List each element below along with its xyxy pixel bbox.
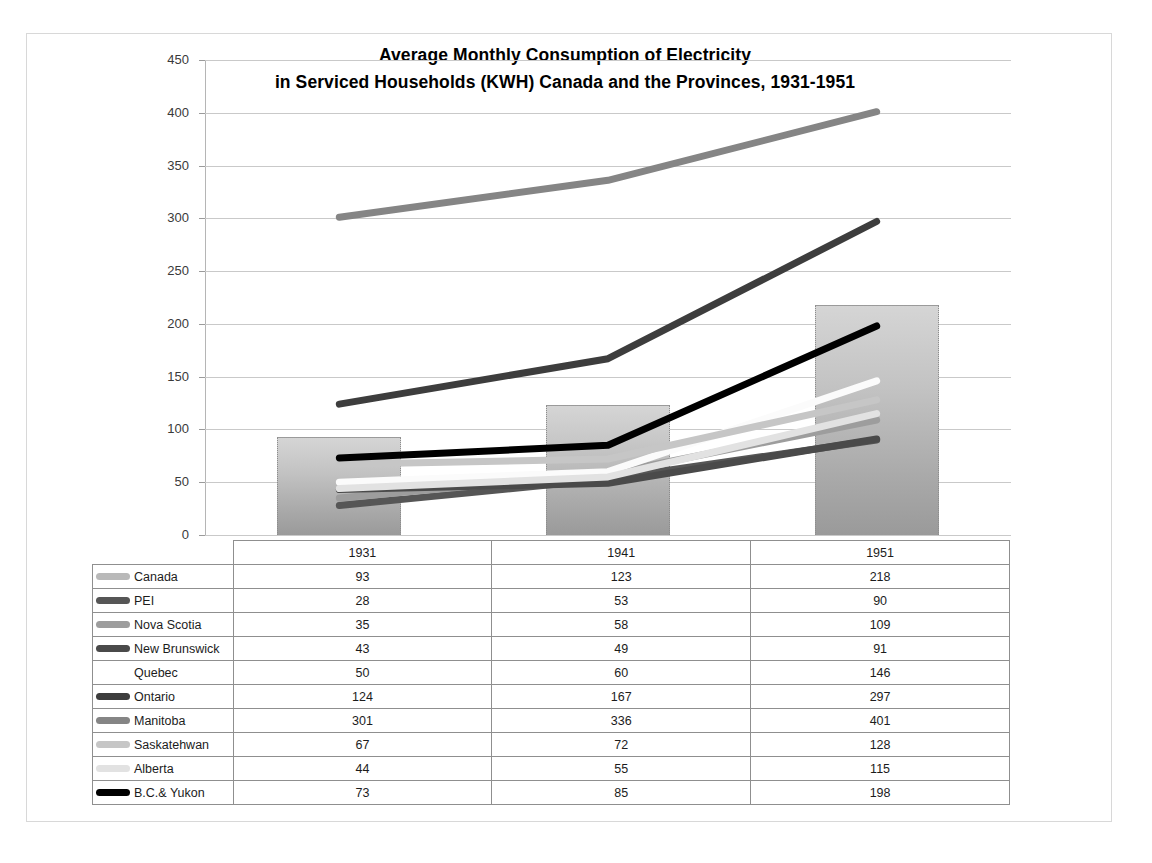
legend-swatch-icon: [96, 645, 130, 652]
legend-swatch-icon: [96, 741, 130, 748]
series-lines: [205, 60, 1011, 535]
table-cell-1931: 28: [233, 589, 492, 613]
y-axis-tick-label: 350: [149, 159, 189, 172]
table-cell-1931: 44: [233, 757, 492, 781]
table-row: New Brunswick434991: [93, 637, 1010, 661]
legend-label: Nova Scotia: [134, 618, 201, 632]
data-table: 193119411951Canada93123218PEI285390Nova …: [92, 540, 1010, 805]
table-row: Canada93123218: [93, 565, 1010, 589]
legend-swatch-icon: [96, 717, 130, 724]
table-cell-1951: 146: [751, 661, 1010, 685]
table-cell-1951: 109: [751, 613, 1010, 637]
y-axis-tick-label: 150: [149, 370, 189, 383]
table-cell-1951: 198: [751, 781, 1010, 805]
table-row: Saskatehwan6772128: [93, 733, 1010, 757]
table-row: Alberta4455115: [93, 757, 1010, 781]
y-axis-tick-label: 400: [149, 106, 189, 119]
legend-swatch-icon: [96, 597, 130, 604]
table-cell-1951: 91: [751, 637, 1010, 661]
table-corner-cell: [93, 541, 234, 565]
table-cell-1951: 90: [751, 589, 1010, 613]
table-cell-1931: 67: [233, 733, 492, 757]
table-row: Manitoba301336401: [93, 709, 1010, 733]
table-cell-1931: 50: [233, 661, 492, 685]
y-axis-tick-label: 50: [149, 475, 189, 488]
legend-label: Alberta: [134, 762, 174, 776]
legend-label: Manitoba: [134, 714, 185, 728]
legend-swatch-icon: [96, 573, 130, 580]
table-row: PEI285390: [93, 589, 1010, 613]
legend-label: New Brunswick: [134, 642, 219, 656]
table-cell-1941: 53: [492, 589, 751, 613]
legend-cell-saskatehwan: Saskatehwan: [93, 733, 234, 757]
table-cell-1941: 123: [492, 565, 751, 589]
legend-swatch-icon: [96, 669, 130, 676]
legend-cell-alberta: Alberta: [93, 757, 234, 781]
table-cell-1951: 128: [751, 733, 1010, 757]
table-row: Ontario124167297: [93, 685, 1010, 709]
legend-cell-b-c-yukon: B.C.& Yukon: [93, 781, 234, 805]
table-cell-1931: 93: [233, 565, 492, 589]
table-row: Quebec5060146: [93, 661, 1010, 685]
legend-cell-quebec: Quebec: [93, 661, 234, 685]
table-header-1951: 1951: [751, 541, 1010, 565]
legend-label: Quebec: [134, 666, 178, 680]
legend-cell-pei: PEI: [93, 589, 234, 613]
legend-swatch-icon: [96, 621, 130, 628]
legend-cell-nova-scotia: Nova Scotia: [93, 613, 234, 637]
legend-cell-new-brunswick: New Brunswick: [93, 637, 234, 661]
table-header-1931: 1931: [233, 541, 492, 565]
legend-label: Ontario: [134, 690, 175, 704]
gridline: [205, 535, 1011, 536]
y-axis-tick-label: 300: [149, 211, 189, 224]
table-cell-1941: 167: [492, 685, 751, 709]
plot-canvas: 050100150200250300350400450: [205, 60, 1011, 535]
table-header-row: 193119411951: [93, 541, 1010, 565]
y-tick-mark: [199, 535, 205, 536]
table-cell-1941: 55: [492, 757, 751, 781]
y-axis-tick-label: 250: [149, 264, 189, 277]
legend-label: Canada: [134, 570, 178, 584]
legend-cell-manitoba: Manitoba: [93, 709, 234, 733]
table-cell-1951: 401: [751, 709, 1010, 733]
legend-label: PEI: [134, 594, 154, 608]
legend-cell-ontario: Ontario: [93, 685, 234, 709]
legend-swatch-icon: [96, 693, 130, 700]
table-cell-1931: 73: [233, 781, 492, 805]
chart-plot-area: 050100150200250300350400450: [205, 60, 1011, 535]
table-cell-1941: 85: [492, 781, 751, 805]
table-cell-1951: 115: [751, 757, 1010, 781]
series-line-ontario: [339, 222, 876, 405]
table-cell-1941: 58: [492, 613, 751, 637]
table-cell-1951: 218: [751, 565, 1010, 589]
table-cell-1941: 49: [492, 637, 751, 661]
y-axis-tick-label: 100: [149, 422, 189, 435]
table-cell-1931: 43: [233, 637, 492, 661]
table-row: Nova Scotia3558109: [93, 613, 1010, 637]
legend-swatch-icon: [96, 765, 130, 772]
table-cell-1931: 301: [233, 709, 492, 733]
table-header-1941: 1941: [492, 541, 751, 565]
table-cell-1931: 35: [233, 613, 492, 637]
y-axis-tick-label: 200: [149, 317, 189, 330]
y-axis-tick-label: 450: [149, 53, 189, 66]
table-row: B.C.& Yukon7385198: [93, 781, 1010, 805]
legend-label: Saskatehwan: [134, 738, 209, 752]
table-cell-1941: 60: [492, 661, 751, 685]
table-cell-1941: 72: [492, 733, 751, 757]
legend-label: B.C.& Yukon: [134, 786, 205, 800]
series-line-manitoba: [339, 112, 876, 218]
legend-cell-canada: Canada: [93, 565, 234, 589]
chart-page: Average Monthly Consumption of Electrici…: [0, 0, 1152, 863]
table-cell-1951: 297: [751, 685, 1010, 709]
table-cell-1931: 124: [233, 685, 492, 709]
table-cell-1941: 336: [492, 709, 751, 733]
legend-swatch-icon: [96, 789, 130, 796]
